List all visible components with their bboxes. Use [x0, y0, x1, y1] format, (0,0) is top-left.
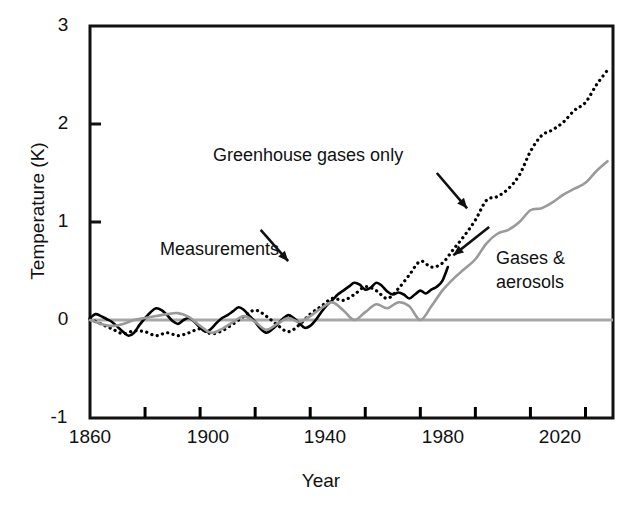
x-tick-label-1980: 1980 [408, 426, 478, 448]
greenhouse-gases-label: Greenhouse gases only [213, 145, 403, 166]
y-tick-label-2: 2 [48, 112, 78, 134]
gases-aerosols-label-line1: Gases & [496, 248, 565, 269]
plot-frame [90, 26, 613, 418]
y-tick-label-1: 1 [48, 210, 78, 232]
x-tick-label-1900: 1900 [173, 426, 243, 448]
y-tick-label-0: 0 [48, 308, 78, 330]
x-tick-label-1860: 1860 [55, 426, 125, 448]
x-tick-label-1940: 1940 [290, 426, 360, 448]
x-tick-label-2020: 2020 [525, 426, 595, 448]
x-axis-title: Year [0, 470, 642, 492]
measurements-label: Measurements [160, 239, 279, 260]
gases-aerosols-label-line2: aerosols [496, 272, 564, 293]
y-axis-title: Temperature (K) [27, 111, 49, 311]
chart-figure: 3 2 1 0 -1 1860 1900 1940 1980 2020 Temp… [0, 0, 642, 512]
y-tick-label-neg1: -1 [40, 406, 78, 428]
y-tick-label-3: 3 [48, 14, 78, 36]
